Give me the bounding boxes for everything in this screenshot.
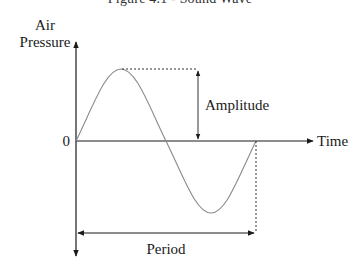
y-axis-label-line1: Air: [35, 17, 55, 33]
y-axis-label-line2: Pressure: [20, 34, 71, 50]
origin-label: 0: [63, 133, 71, 149]
period-label: Period: [146, 241, 186, 257]
x-axis-label: Time: [317, 133, 348, 149]
amplitude-label: Amplitude: [205, 97, 270, 113]
sound-wave-diagram: Air Pressure 0 Time Amplitude Period: [0, 0, 360, 269]
